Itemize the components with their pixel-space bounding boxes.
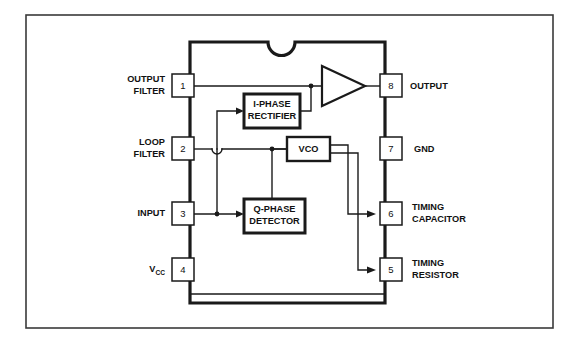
pin-8-group[interactable]: 8 OUTPUT — [380, 74, 448, 97]
pin-5-group[interactable]: 5 TIMING RESISTOR — [380, 258, 459, 281]
pin-5-label-line1: TIMING — [412, 258, 444, 268]
pin-7-number: 7 — [388, 143, 393, 154]
block-q-phase-detector[interactable]: Q-PHASE DETECTOR — [244, 199, 305, 233]
pin-3-number: 3 — [180, 208, 185, 219]
pin-8-label-line1: OUTPUT — [410, 81, 448, 91]
pin-2-group[interactable]: 2 LOOP FILTER — [134, 137, 194, 160]
pin-3-group[interactable]: 3 INPUT — [137, 202, 194, 225]
i-phase-rectifier-label-line1: I-PHASE — [253, 99, 290, 109]
pin-6-label-line1: TIMING — [412, 202, 444, 212]
i-phase-rectifier-label-line2: RECTIFIER — [248, 111, 297, 121]
pin-1-group[interactable]: 1 OUTPUT FILTER — [127, 74, 194, 97]
pin-7-group[interactable]: 7 GND — [380, 137, 435, 160]
pin-4-number: 4 — [180, 264, 185, 275]
pin-4-label-subscript: CC — [155, 269, 165, 276]
pin-4-label-vcc: VCC — [149, 264, 165, 275]
junction-dot-amp-input — [309, 84, 314, 89]
pin-2-label-line1: LOOP — [139, 137, 165, 147]
schematic-canvas: I-PHASE RECTIFIER VCO Q-PHASE DETECTOR 1… — [0, 0, 579, 348]
pin-4-group[interactable]: 4 VCC — [149, 258, 194, 281]
pin-8-number: 8 — [388, 80, 393, 91]
pin-1-label-line2: FILTER — [134, 86, 166, 96]
junction-dot-pin3-rail — [215, 212, 220, 217]
block-vco[interactable]: VCO — [287, 137, 330, 161]
pin-6-number: 6 — [388, 208, 393, 219]
block-i-phase-rectifier[interactable]: I-PHASE RECTIFIER — [244, 94, 300, 128]
pin-5-number: 5 — [388, 264, 393, 275]
pin-1-number: 1 — [180, 80, 185, 91]
vco-label: VCO — [299, 144, 319, 154]
q-phase-detector-label-line1: Q-PHASE — [254, 204, 296, 214]
pin-5-label-line2: RESISTOR — [412, 270, 459, 280]
pin-2-label-line2: FILTER — [134, 149, 166, 159]
pin-3-label-line1: INPUT — [137, 208, 165, 218]
q-phase-detector-label-line2: DETECTOR — [249, 216, 300, 226]
pin-6-label-line2: CAPACITOR — [412, 214, 466, 224]
block-diagram-page: I-PHASE RECTIFIER VCO Q-PHASE DETECTOR 1… — [0, 0, 579, 348]
pin-1-label-line1: OUTPUT — [127, 74, 165, 84]
pin-6-group[interactable]: 6 TIMING CAPACITOR — [380, 202, 466, 225]
pin-7-label-line1: GND — [414, 144, 435, 154]
pin-2-number: 2 — [180, 143, 185, 154]
